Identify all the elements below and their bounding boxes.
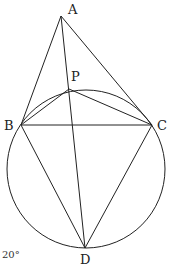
label-A: A: [67, 2, 78, 17]
circumcircle: [7, 90, 165, 248]
label-B: B: [4, 118, 14, 133]
segment-CD: [85, 125, 152, 248]
geometry-diagram: A P B C D 20°: [0, 0, 171, 266]
label-C: C: [157, 118, 167, 133]
label-D: D: [80, 252, 90, 266]
segment-AD: [61, 16, 85, 248]
label-P: P: [71, 69, 80, 84]
segment-PB: [21, 89, 69, 125]
angle-note: 20°: [2, 249, 20, 260]
segment-AB: [21, 16, 61, 125]
segment-BD: [21, 125, 85, 248]
